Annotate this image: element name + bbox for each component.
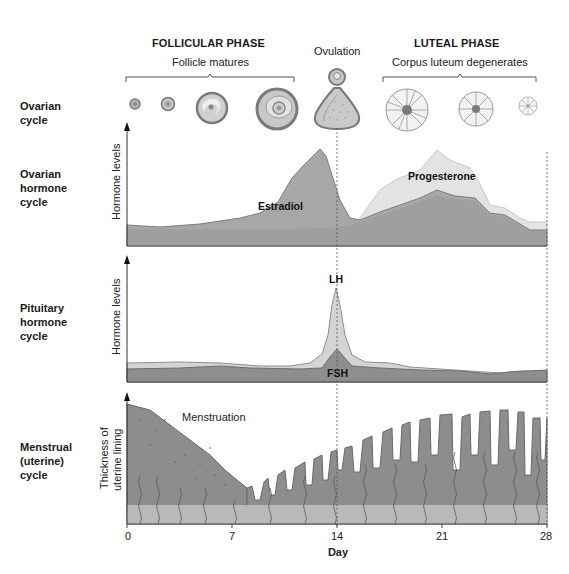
ovulation-follicle-icon — [315, 69, 359, 129]
y-axis-arrow-icon — [124, 122, 130, 131]
estradiol-label: Estradiol — [258, 200, 303, 212]
x-tick-21: 21 — [436, 530, 448, 542]
fsh-label: FSH — [327, 367, 348, 379]
follicle-icons — [130, 89, 297, 129]
x-tick-0: 0 — [125, 530, 131, 542]
x-axis-label: Day — [328, 546, 348, 558]
menstrual-cycle-diagram — [0, 0, 569, 574]
luteal-bracket — [383, 74, 536, 82]
y-axis-arrow-icon — [124, 255, 130, 264]
menstruation-label: Menstruation — [182, 411, 246, 423]
lh-label: LH — [329, 273, 343, 285]
x-tick-28: 28 — [540, 530, 552, 542]
corpus-luteum-icons — [386, 89, 537, 131]
x-axis-ticks — [127, 524, 547, 528]
x-tick-14: 14 — [331, 530, 343, 542]
follicular-bracket — [126, 74, 294, 82]
y-axis-arrow-icon — [124, 392, 130, 401]
progesterone-label: Progesterone — [408, 170, 476, 182]
x-tick-7: 7 — [229, 530, 235, 542]
